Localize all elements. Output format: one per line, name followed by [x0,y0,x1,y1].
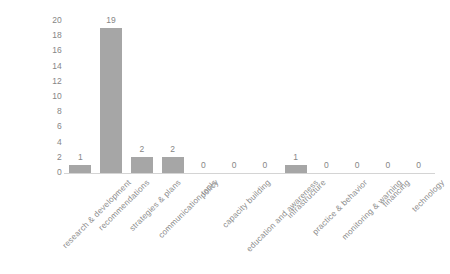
y-axis: 20181614121086420 [40,0,62,180]
bar-value-label: 0 [324,161,329,170]
bar-slot: 0 [373,21,404,173]
x-axis-tick-slot: policy [188,176,219,272]
y-axis-tick-label: 18 [40,31,62,40]
bar-value-label: 0 [416,161,421,170]
bar-slot: 2 [157,21,188,173]
bar-value-label: 0 [355,161,360,170]
x-axis-tick-slot: monitoring & warning [342,176,373,272]
bar-value-label: 1 [78,153,83,162]
x-axis-tick-slot: strategies & plans [127,176,158,272]
bar-slot: 0 [403,21,434,173]
y-axis-tick-label: 8 [40,107,62,116]
x-axis-tick-slot: technology [403,176,434,272]
bar-value-label: 19 [106,16,116,25]
x-axis-tick-slot: financing [373,176,404,272]
plot-area: 1192200010000 [65,21,434,173]
x-axis-tick-slot: infrastructure [280,176,311,272]
bar[interactable] [285,165,307,173]
bar-value-label: 0 [201,161,206,170]
bar[interactable] [69,165,91,173]
x-axis-tick-slot: practice & behavior [311,176,342,272]
bar[interactable] [100,28,122,172]
bar-slot: 0 [219,21,250,173]
bar-value-label: 0 [385,161,390,170]
x-axis-line [64,173,435,174]
bar[interactable] [162,157,184,172]
y-axis-tick-label: 16 [40,46,62,55]
bar-slot: 1 [280,21,311,173]
x-axis-tick-label: technology [410,178,446,214]
bar-value-label: 0 [232,161,237,170]
y-axis-tick-label: 6 [40,122,62,131]
bar-value-label: 0 [262,161,267,170]
y-axis-tick-label: 4 [40,138,62,147]
bar-value-label: 2 [139,145,144,154]
y-axis-tick-label: 10 [40,92,62,101]
x-axis-tick-label: policy [199,178,221,200]
bar[interactable] [131,157,153,172]
bar-value-label: 1 [293,153,298,162]
x-axis-tick-slot: capacity building [219,176,250,272]
x-axis-tick-slot: research & development [65,176,96,272]
bar-slot: 1 [65,21,96,173]
bar-slot: 19 [96,21,127,173]
y-axis-tick-label: 12 [40,77,62,86]
y-axis-tick-label: 14 [40,62,62,71]
bar-slot: 0 [188,21,219,173]
x-axis-tick-slot: communication tools [157,176,188,272]
x-axis-tick-slot: recommendations [96,176,127,272]
bar-slot: 2 [127,21,158,173]
y-axis-tick-label: 20 [40,16,62,25]
bar-slot: 0 [250,21,281,173]
y-axis-tick-label: 0 [40,168,62,177]
bar-slot: 0 [342,21,373,173]
bar-value-label: 2 [170,145,175,154]
bar-slot: 0 [311,21,342,173]
y-axis-tick-label: 2 [40,153,62,162]
x-axis-tick-slot: education and awareness [250,176,281,272]
bar-chart: 20181614121086420 1192200010000 research… [0,0,450,274]
x-axis: research & developmentrecommendationsstr… [65,176,434,272]
